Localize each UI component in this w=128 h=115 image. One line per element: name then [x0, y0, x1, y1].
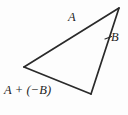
vector-b-label: B — [111, 31, 119, 44]
resultant-vector-label: A + (−B) — [4, 84, 51, 97]
triangle-vector-diagram — [0, 0, 128, 115]
figure-background — [0, 0, 128, 115]
vector-diagram-figure: A B A + (−B) — [0, 0, 128, 115]
vector-a-label: A — [68, 11, 76, 24]
